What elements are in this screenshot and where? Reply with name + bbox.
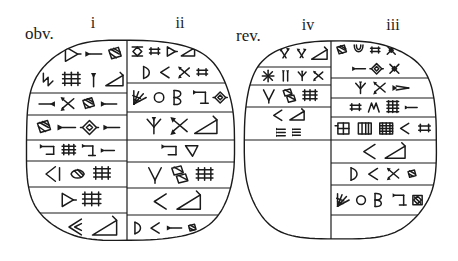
sign-grid_s (150, 48, 160, 55)
sign-tri_r (62, 193, 76, 206)
sign-winkel (274, 110, 282, 120)
sign-hook (43, 73, 53, 85)
sign-tripod (298, 71, 306, 81)
sign-wedge_r (167, 226, 182, 231)
sign-wedge_r (85, 51, 101, 56)
sign-wedge_r (101, 101, 117, 106)
sign-wedge_big (195, 116, 217, 133)
case (331, 193, 440, 215)
case (22, 121, 127, 141)
sign-wedge_big (290, 109, 304, 120)
sign-boxgrid (358, 123, 371, 134)
case (331, 143, 440, 163)
case (240, 109, 331, 140)
column-i-label: i (78, 14, 108, 32)
sign-hatch_sm (189, 224, 196, 231)
case (331, 82, 440, 98)
sign-grid (94, 167, 111, 179)
case (331, 123, 440, 140)
sign-grid (196, 168, 213, 180)
sign-winkel (151, 223, 159, 233)
sign-dshape (144, 67, 150, 79)
case (22, 97, 127, 115)
sign-wedge_big (312, 47, 327, 59)
case (331, 168, 440, 185)
sign-winkel_v (149, 168, 161, 184)
sign-hatchbox (83, 98, 94, 109)
sign-chev_cluster (297, 48, 307, 57)
case (22, 47, 127, 93)
sign-circle (357, 196, 366, 205)
sign-wedge_big (385, 143, 405, 158)
sign-winkel2 (69, 219, 81, 235)
sign-chevX (61, 97, 74, 111)
sign-bshape (174, 90, 181, 104)
tablet-drawing (0, 0, 458, 261)
sign-winkel (369, 168, 378, 179)
case (240, 70, 331, 85)
sign-hlines3 (292, 128, 300, 136)
column-iii-label: iii (378, 16, 408, 34)
sign-wedge_r (103, 125, 119, 130)
sign-hatch2 (172, 166, 188, 183)
sign-winkel (154, 194, 166, 209)
sign-wedge_r (101, 148, 115, 153)
sign-boxdia (413, 195, 422, 204)
sign-winkel (364, 144, 375, 158)
case (127, 46, 238, 83)
case (69, 216, 117, 235)
sign-hatch2 (283, 89, 295, 102)
case (240, 89, 331, 107)
column-iv-label: iv (293, 16, 323, 34)
sign-chevX (387, 168, 399, 181)
sign-hatchbox (109, 47, 121, 58)
sign-wedge_l (39, 101, 55, 106)
case (127, 116, 238, 140)
sign-tri_r (167, 47, 177, 56)
sign-hatchbox (337, 45, 347, 54)
sign-diamond_w (370, 64, 383, 74)
sign-grid (83, 192, 101, 206)
column-iv (240, 47, 331, 140)
reverse-tablet (240, 41, 440, 239)
sign-xwedge (390, 64, 399, 73)
obverse-tablet (22, 40, 238, 241)
sign-fanhatch (337, 194, 349, 206)
sign-hatch_oval (71, 170, 84, 178)
sign-star (262, 70, 274, 82)
sign-wedge_r (352, 67, 365, 71)
sign-corner_w (393, 193, 407, 205)
sign-winkel_v (264, 90, 275, 103)
sign-wedge_r (58, 125, 76, 131)
sign-tripod (147, 117, 160, 134)
sign-wedge_big (177, 191, 200, 209)
case (127, 166, 238, 188)
sign-ushape (354, 45, 363, 52)
sign-corner_w (193, 90, 208, 103)
sign-wedge_r (405, 105, 417, 109)
sign-diamond_w (81, 121, 99, 135)
sign-grid_s (197, 69, 208, 76)
sign-corner_w (82, 144, 95, 156)
sign-dshape (351, 168, 357, 180)
sign-hatchbox (38, 121, 51, 133)
sign-fanhatch (133, 91, 146, 104)
sign-grid_s (371, 47, 380, 53)
case (331, 45, 440, 78)
sign-hatch_sm (408, 170, 416, 177)
sign-wedge_up (91, 73, 96, 87)
obverse-label: obv. (25, 24, 54, 44)
tablet-figure: obv. i ii rev. iv iii (0, 0, 458, 261)
sign-winkel (161, 67, 169, 78)
case (127, 90, 238, 112)
sign-bracket_w (40, 144, 54, 154)
sign-circle (154, 93, 163, 102)
sign-grid (62, 145, 75, 155)
sign-grid (63, 72, 81, 85)
sign-wedge_big (92, 216, 116, 235)
sign-boxfill (380, 123, 393, 134)
sign-grid_s (419, 124, 431, 131)
sign-wedge_big (106, 72, 123, 85)
sign-diafence (132, 47, 142, 56)
sign-tripod (356, 82, 366, 94)
